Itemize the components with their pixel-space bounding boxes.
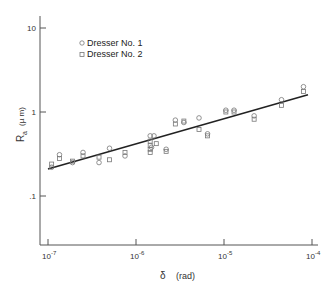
y-tick-label: 10 bbox=[27, 24, 36, 33]
legend: Dresser No. 1 Dresser No. 2 bbox=[80, 38, 143, 59]
data-point-square bbox=[197, 127, 201, 131]
y-axis-title: R a (µ m) bbox=[15, 107, 28, 142]
data-point-circle bbox=[301, 84, 306, 89]
legend-circle-icon bbox=[80, 41, 84, 45]
x-tick-label: 10-6 bbox=[130, 250, 145, 261]
data-point-circle bbox=[279, 97, 284, 102]
data-point-square bbox=[108, 158, 112, 162]
y-ticks: 101.1 bbox=[27, 24, 46, 201]
data-point-square bbox=[279, 103, 283, 107]
legend-label-dresser-2: Dresser No. 2 bbox=[87, 49, 143, 59]
x-ticks: 10-710-610-510-4 bbox=[42, 239, 321, 261]
legend-label-dresser-1: Dresser No. 1 bbox=[87, 38, 143, 48]
legend-square-icon bbox=[80, 53, 84, 57]
x-axis-title: δ (rad) bbox=[160, 270, 195, 281]
data-point-circle bbox=[97, 160, 102, 165]
data-point-circle bbox=[107, 146, 112, 151]
regression-line bbox=[48, 95, 308, 169]
log-log-chart: 101.1 10-710-610-510-4 Dresser No. 1 Dre… bbox=[0, 0, 336, 291]
x-title-unit: (rad) bbox=[176, 271, 195, 281]
x-title-symbol: δ bbox=[160, 270, 166, 281]
y-title-unit: (µ m) bbox=[17, 107, 26, 126]
x-tick-label: 10-4 bbox=[306, 250, 321, 261]
fit-line bbox=[48, 95, 308, 169]
x-tick-label: 10-7 bbox=[42, 250, 57, 261]
y-tick-label: .1 bbox=[29, 192, 36, 201]
data-point-square bbox=[97, 155, 101, 159]
x-tick-label: 10-5 bbox=[218, 250, 233, 261]
y-tick-label: 1 bbox=[32, 108, 37, 117]
data-point-square bbox=[154, 142, 158, 146]
data-point-circle bbox=[197, 116, 202, 121]
data-point-square bbox=[301, 90, 305, 94]
y-title-sub: a bbox=[21, 131, 28, 135]
